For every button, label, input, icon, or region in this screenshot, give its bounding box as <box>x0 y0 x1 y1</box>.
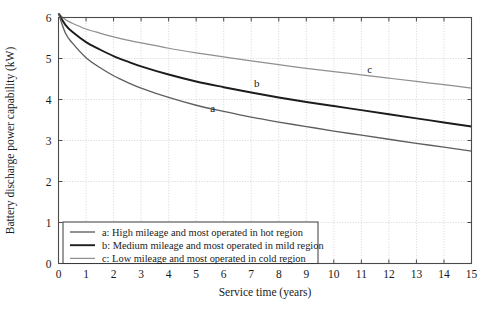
curve-a <box>59 13 472 151</box>
y-tick-label: 1 <box>46 217 52 229</box>
x-tick-label: 11 <box>356 268 367 280</box>
legend-label-a: a: High mileage and most operated in hot… <box>102 227 304 238</box>
x-tick-label: 3 <box>138 268 144 280</box>
legend-label-c: c: Low mileage and most operated in cold… <box>102 253 307 264</box>
x-tick-label: 6 <box>221 268 227 280</box>
y-tick-label: 4 <box>46 94 52 106</box>
chart-svg: 01234567891011121314150123456 abc a: Hig… <box>0 0 494 313</box>
curve-c <box>59 13 472 88</box>
legend-label-b: b: Medium mileage and most operated in m… <box>102 240 324 251</box>
x-tick-label: 1 <box>83 268 89 280</box>
x-tick-label: 10 <box>328 268 340 280</box>
x-tick-label: 0 <box>56 268 62 280</box>
y-tick-label: 0 <box>46 258 52 270</box>
x-tick-label: 8 <box>276 268 282 280</box>
x-tick-label: 2 <box>111 268 117 280</box>
y-tick-label: 5 <box>46 53 52 65</box>
chart-figure: 01234567891011121314150123456 abc a: Hig… <box>0 0 494 313</box>
y-axis-title: Battery discharge power capability (kW) <box>4 47 17 235</box>
x-tick-label: 12 <box>383 268 395 280</box>
curve-label-c: c <box>367 63 372 75</box>
y-tick-label: 3 <box>46 135 52 147</box>
curve-annotations: abc <box>210 63 372 114</box>
curve-label-a: a <box>210 102 215 114</box>
x-tick-label: 9 <box>303 268 309 280</box>
x-tick-label: 15 <box>466 268 478 280</box>
x-axis-title: Service time (years) <box>219 286 312 299</box>
data-curves <box>59 13 472 151</box>
curve-b <box>59 13 472 126</box>
x-tick-label: 4 <box>166 268 172 280</box>
x-tick-label: 7 <box>248 268 254 280</box>
y-tick-label: 2 <box>46 176 52 188</box>
x-tick-label: 14 <box>438 268 450 280</box>
curve-label-b: b <box>254 77 260 89</box>
x-tick-label: 13 <box>411 268 423 280</box>
y-tick-label: 6 <box>46 12 52 24</box>
x-tick-label: 5 <box>193 268 199 280</box>
legend: a: High mileage and most operated in hot… <box>63 222 324 264</box>
